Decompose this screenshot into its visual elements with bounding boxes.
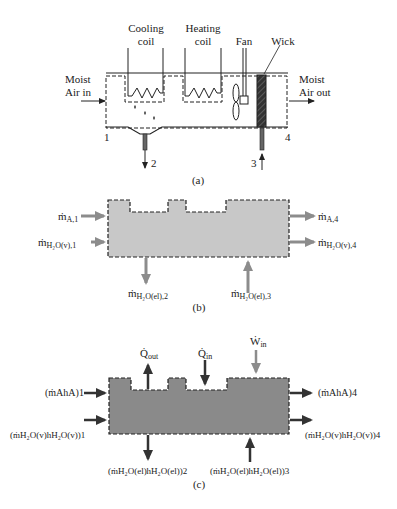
label-out-air-4: (ṁAhA)4 [318, 387, 357, 399]
inlet-label: Moist [65, 73, 91, 85]
inlet-label-2: Air in [65, 86, 91, 98]
heating-coil-label-2: coil [195, 35, 212, 47]
fan-label: Fan [236, 35, 253, 47]
panel-c-energy-balance: Q̇out Q̇in Ẇin (ṁAhA)1 (ṁH₂O(v)hH₂O(v))1… [10, 335, 381, 491]
wick-label: Wick [271, 35, 295, 47]
control-volume-mass [108, 200, 289, 257]
caption-a: (a) [192, 174, 205, 187]
heating-coil-label: Heating [186, 22, 221, 34]
label-in-liquid-3: ṁH₂O(el),3 [231, 287, 271, 301]
cooling-coil-label: Cooling [128, 22, 164, 34]
panel-a-physical-device: Cooling coil Heating coil Fan Wick Moist… [65, 22, 330, 187]
label-out-vapor-4: ṁH₂O(v),4 [318, 236, 356, 250]
state-point-2: 2 [151, 157, 157, 169]
wick-icon [257, 45, 280, 127]
water-supply-pipe-icon [260, 128, 264, 170]
label-q-in: Q̇in [198, 347, 212, 361]
label-in-vapor-1: (ṁH₂O(v)hH₂O(v))1 [10, 430, 85, 440]
cooling-coil-label-2: coil [138, 35, 155, 47]
label-in-air-1: ṁA,1 [58, 210, 78, 224]
air-conditioning-control-volume-figure: Cooling coil Heating coil Fan Wick Moist… [0, 0, 397, 509]
outlet-label-2: Air out [299, 86, 330, 98]
label-in-air-1: (ṁAhA)1 [45, 387, 84, 399]
label-in-vapor-1: ṁH₂O(v),1 [38, 236, 76, 250]
label-out-liquid-2: (ṁH₂O(el)hH₂O(el))2 [108, 466, 187, 476]
outlet-label: Moist [299, 73, 325, 85]
label-in-liquid-3: (ṁH₂O(el)hH₂O(el))3 [210, 466, 290, 476]
label-w-in: Ẇin [250, 335, 267, 349]
state-point-1: 1 [104, 131, 110, 143]
control-volume-energy [109, 378, 289, 434]
caption-c: (c) [193, 478, 206, 491]
caption-b: (b) [193, 301, 206, 314]
label-out-vapor-4: (ṁH₂O(v)hH₂O(v))4 [305, 430, 381, 440]
panel-b-mass-balance: ṁA,1 ṁH₂O(v),1 ṁA,4 ṁH₂O(v),4 ṁH₂O(el),2… [38, 200, 356, 314]
drain-pipe-icon [143, 134, 147, 168]
state-point-3: 3 [251, 157, 257, 169]
label-q-out: Q̇out [140, 347, 159, 361]
label-out-air-4: ṁA,4 [318, 210, 338, 224]
fan-icon [233, 48, 248, 120]
label-out-liquid-2: ṁH₂O(el),2 [128, 287, 168, 301]
condensate-drops-icon [134, 105, 155, 120]
state-point-4: 4 [285, 131, 291, 143]
